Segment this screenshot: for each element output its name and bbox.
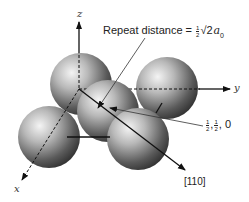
position-label: 12,12, 0 xyxy=(205,119,231,132)
direction-label: [110] xyxy=(184,177,206,187)
z-axis-label: z xyxy=(77,8,82,19)
repeat-distance-label: Repeat distance = 12√2 a0 xyxy=(103,25,224,39)
half-fraction: 12 xyxy=(196,25,199,38)
x-axis-label: x xyxy=(14,183,20,194)
y-axis-label: y xyxy=(234,82,240,93)
